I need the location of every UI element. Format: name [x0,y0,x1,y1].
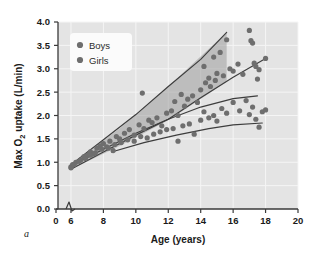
data-point [72,162,77,167]
data-point [99,147,104,152]
data-point [255,76,260,81]
data-point [154,115,159,120]
data-point [244,98,249,103]
x-tick-label: 10 [131,215,142,226]
data-point [190,93,195,98]
data-point [106,146,111,151]
svg-text:Max O2 uptake (L/min): Max O2 uptake (L/min) [13,63,27,168]
chart-legend: Boys Girls [70,33,132,71]
data-point [141,126,146,131]
x-tick-label: 18 [260,215,271,226]
data-point [185,97,190,102]
data-point [179,92,184,97]
data-point [149,120,154,125]
data-point [250,104,255,109]
data-point [247,28,252,33]
data-point [111,148,116,153]
data-point [88,153,93,158]
data-point [169,108,174,113]
data-point [256,67,261,72]
data-point [224,111,229,116]
data-point [122,131,127,136]
legend-marker-girls [77,57,83,63]
data-point [213,78,218,83]
y-axis-title-post: uptake (L/min) [13,63,24,134]
data-point [159,123,164,128]
data-point [175,139,180,144]
y-axis-title: Max O2 uptake (L/min) [13,63,27,168]
data-point [263,56,268,61]
data-point [195,100,200,105]
data-point [219,106,224,111]
data-point [187,121,192,126]
data-point [138,134,143,139]
y-axis-tick-labels: 0.00.51.01.52.02.53.03.54.0 [37,16,51,214]
x-axis-tick-labels: 068101214161820 [53,215,303,226]
data-point [231,100,236,105]
x-tick-label: 14 [195,215,206,226]
data-point [172,99,177,104]
x-tick-label: 16 [228,215,239,226]
x-tick-label: 6 [68,215,73,226]
data-point [253,117,258,122]
data-point [218,50,223,55]
y-tick-label: 1.5 [37,133,51,144]
data-point [201,109,206,114]
x-tick-label: 8 [101,215,106,226]
data-point [164,127,169,132]
x-tick-label: 12 [163,215,174,226]
y-axis-title-pre: Max O [13,138,24,168]
data-point [214,71,219,76]
x-tick-label: 20 [293,215,304,226]
data-point [171,126,176,131]
y-tick-label: 0.0 [37,203,50,214]
data-point [247,112,252,117]
data-point [136,122,141,127]
data-point [192,132,197,137]
data-point [214,119,219,124]
data-point [206,115,211,120]
legend-label-boys: Boys [89,40,110,51]
data-point [231,68,236,73]
data-point [208,84,213,89]
figure-panel: 068101214161820 0.00.51.01.52.02.53.03.5… [0,0,320,266]
data-point [256,125,261,130]
data-point [235,61,240,66]
data-point [119,140,124,145]
data-point [237,108,242,113]
data-point [175,113,180,118]
data-point [201,64,206,69]
y-tick-label: 2.5 [37,87,51,98]
data-point [151,132,156,137]
data-point [180,123,185,128]
legend-label-girls: Girls [89,55,109,66]
data-point [263,107,268,112]
x-axis-title: Age (years) [151,234,205,245]
data-point [211,54,216,59]
max-o2-uptake-scatter-chart: 068101214161820 0.00.51.01.52.02.53.03.5… [0,0,320,266]
data-point [198,118,203,123]
y-tick-label: 4.0 [37,16,50,27]
data-point [125,137,130,142]
data-point [182,104,187,109]
y-tick-label: 1.0 [37,157,50,168]
data-point [112,142,117,147]
data-point [224,37,229,42]
y-tick-label: 2.0 [37,110,50,121]
data-point [211,113,216,118]
data-point [107,139,112,144]
data-point [140,90,145,95]
data-point [206,76,211,81]
data-point [145,135,150,140]
y-tick-label: 3.0 [37,63,50,74]
y-tick-label: 0.5 [37,180,51,191]
data-point [240,72,245,77]
data-point [250,40,255,45]
data-point [132,133,137,138]
data-point [76,159,81,164]
data-point [198,87,203,92]
data-point [221,73,226,78]
data-point [132,139,137,144]
panel-label: a [24,228,29,239]
y-tick-label: 3.5 [37,40,51,51]
